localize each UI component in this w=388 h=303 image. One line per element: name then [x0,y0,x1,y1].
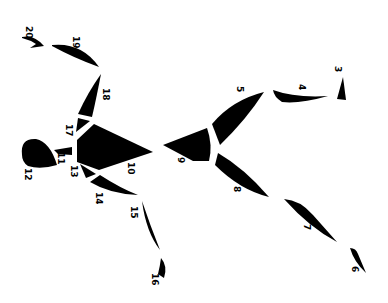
segment-7 [284,199,337,242]
segment-15 [142,201,160,250]
label-8: 8 [232,186,242,192]
label-3: 3 [333,66,343,72]
label-13: 13 [69,165,79,178]
label-7: 7 [302,224,312,230]
label-5: 5 [235,86,245,92]
label-4: 4 [297,84,307,90]
segment-10 [77,124,153,170]
label-15: 15 [129,206,139,219]
label-9: 9 [176,157,186,163]
segment-18 [78,74,101,117]
segment-4 [273,90,328,102]
label-10: 10 [126,162,136,175]
label-6: 6 [350,266,360,272]
label-14: 14 [94,192,104,205]
segment-5 [212,92,264,145]
label-19: 19 [71,36,81,49]
label-11: 11 [56,152,66,165]
label-12: 12 [23,168,33,181]
label-20: 20 [24,26,34,39]
segment-12 [22,139,57,168]
body-segment-diagram: 20 19 18 17 11 12 13 10 14 15 16 9 5 4 3… [0,0,388,303]
label-17: 17 [64,124,74,137]
segment-3 [337,77,346,100]
label-18: 18 [101,88,111,101]
label-16: 16 [150,273,160,286]
